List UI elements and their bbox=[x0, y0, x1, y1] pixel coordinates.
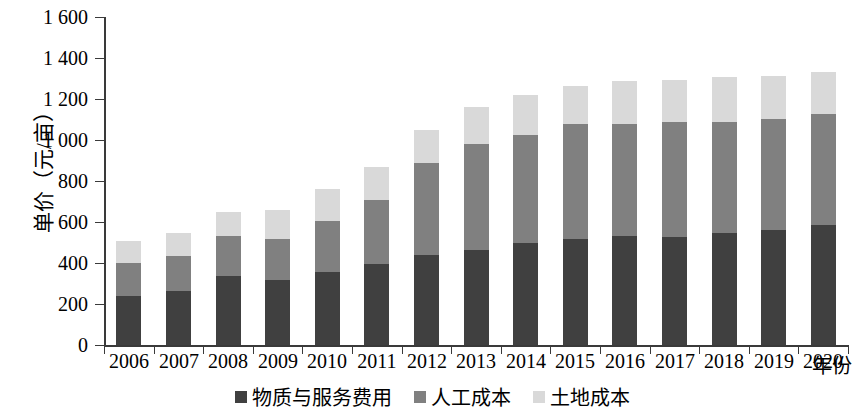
bar-segment bbox=[464, 107, 489, 144]
legend-swatch-icon bbox=[235, 391, 247, 403]
bar-segment bbox=[612, 81, 637, 124]
y-axis-tick-label: 1 000 bbox=[43, 129, 88, 152]
y-axis-tick-label: 1 200 bbox=[43, 88, 88, 111]
legend-swatch-icon bbox=[414, 391, 426, 403]
bar-segment bbox=[811, 72, 836, 114]
x-axis-tick-label: 2017 bbox=[650, 350, 700, 373]
y-axis-tick-label: 600 bbox=[58, 211, 88, 234]
x-axis-tick-label: 2015 bbox=[550, 350, 600, 373]
bar-group bbox=[315, 189, 340, 345]
x-axis-tick-label: 2007 bbox=[154, 350, 204, 373]
bar-segment bbox=[612, 236, 637, 345]
bar-group bbox=[662, 80, 687, 345]
bar-segment bbox=[216, 212, 241, 236]
bar-segment bbox=[513, 243, 538, 345]
bar-segment bbox=[364, 200, 389, 264]
legend-item[interactable]: 土地成本 bbox=[533, 382, 630, 411]
bar-segment bbox=[315, 272, 340, 345]
bar-segment bbox=[513, 135, 538, 243]
y-axis-tick: 800 bbox=[95, 181, 104, 182]
y-axis-tick: 0 bbox=[95, 345, 104, 346]
bar-segment bbox=[761, 230, 786, 345]
bar-segment bbox=[712, 122, 737, 233]
y-axis-tick: 1 200 bbox=[95, 99, 104, 100]
bar-segment bbox=[811, 114, 836, 225]
y-axis-tick: 1 000 bbox=[95, 140, 104, 141]
bar-group bbox=[265, 210, 290, 345]
chart-legend: 物质与服务费用人工成本土地成本 bbox=[0, 382, 864, 411]
x-axis-tick-label: 2014 bbox=[501, 350, 551, 373]
y-axis-tick: 1 400 bbox=[95, 58, 104, 59]
x-axis-tick-label: 2016 bbox=[600, 350, 650, 373]
bar-segment bbox=[761, 119, 786, 230]
x-axis-tick-label: 2010 bbox=[302, 350, 352, 373]
legend-swatch-icon bbox=[533, 391, 545, 403]
bar-segment bbox=[563, 86, 588, 124]
bar-segment bbox=[265, 210, 290, 239]
bar-group bbox=[712, 77, 737, 345]
x-axis-labels: 2006200720082009201020112012201320142015… bbox=[104, 350, 848, 376]
bar-segment bbox=[216, 236, 241, 276]
bar-segment bbox=[364, 167, 389, 200]
y-axis-tick-label: 800 bbox=[58, 170, 88, 193]
bar-segment bbox=[116, 296, 141, 345]
bar-group bbox=[216, 212, 241, 345]
y-axis-tick: 200 bbox=[95, 304, 104, 305]
bar-segment bbox=[662, 237, 687, 345]
y-axis-tick: 600 bbox=[95, 222, 104, 223]
bar-segment bbox=[414, 130, 439, 163]
bar-segment bbox=[216, 276, 241, 345]
bar-segment bbox=[166, 256, 191, 291]
bar-segment bbox=[662, 122, 687, 237]
bar-segment bbox=[315, 221, 340, 272]
x-axis-tick-label: 2019 bbox=[749, 350, 799, 373]
bar-segment bbox=[761, 76, 786, 119]
bar-segment bbox=[166, 233, 191, 256]
bar-segment bbox=[464, 144, 489, 250]
x-axis-tick-label: 2008 bbox=[203, 350, 253, 373]
x-axis-title: 年份 bbox=[812, 350, 852, 379]
bar-group bbox=[166, 233, 191, 345]
x-axis-line bbox=[104, 345, 849, 347]
bar-group bbox=[414, 130, 439, 345]
bar-group bbox=[364, 167, 389, 345]
bar-segment bbox=[116, 263, 141, 296]
bar-segment bbox=[116, 241, 141, 263]
bar-group bbox=[464, 107, 489, 345]
bar-segment bbox=[513, 95, 538, 135]
bar-segment bbox=[414, 163, 439, 255]
x-axis-tick-label: 2012 bbox=[402, 350, 452, 373]
bar-segment bbox=[563, 124, 588, 239]
bar-group bbox=[761, 76, 786, 345]
bar-segment bbox=[414, 255, 439, 345]
bar-segment bbox=[712, 233, 737, 345]
legend-item[interactable]: 物质与服务费用 bbox=[235, 382, 392, 411]
legend-label: 人工成本 bbox=[431, 382, 511, 411]
stacked-bar-chart: 单价（元/亩） 1 6001 4001 2001 000800600400200… bbox=[0, 0, 864, 412]
x-axis-tick-label: 2006 bbox=[104, 350, 154, 373]
bar-group bbox=[116, 241, 141, 345]
y-axis-tick-label: 1 400 bbox=[43, 47, 88, 70]
x-axis-tick-label: 2011 bbox=[352, 350, 402, 373]
bars-layer bbox=[104, 17, 848, 345]
bar-segment bbox=[612, 124, 637, 236]
y-axis-title: 单价（元/亩） bbox=[27, 47, 57, 287]
bar-segment bbox=[811, 225, 836, 345]
y-axis-tick-label: 1 600 bbox=[43, 6, 88, 29]
bar-segment bbox=[166, 291, 191, 345]
bar-segment bbox=[563, 239, 588, 345]
bar-group bbox=[811, 72, 836, 345]
x-axis-tick-label: 2018 bbox=[699, 350, 749, 373]
plot-area: 1 6001 4001 2001 0008006004002000 bbox=[104, 17, 848, 345]
bar-segment bbox=[265, 280, 290, 345]
bar-group bbox=[513, 95, 538, 345]
x-axis-tick-label: 2009 bbox=[253, 350, 303, 373]
legend-item[interactable]: 人工成本 bbox=[414, 382, 511, 411]
bar-segment bbox=[265, 239, 290, 280]
bar-segment bbox=[464, 250, 489, 345]
y-axis-tick-label: 400 bbox=[58, 252, 88, 275]
bar-segment bbox=[662, 80, 687, 122]
y-axis-tick-label: 0 bbox=[78, 334, 88, 357]
y-axis-tick: 1 600 bbox=[95, 17, 104, 18]
bar-segment bbox=[315, 189, 340, 221]
